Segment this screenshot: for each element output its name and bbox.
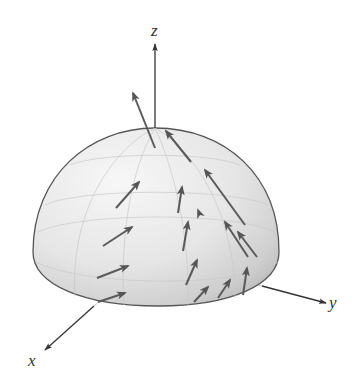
x-axis: [45, 306, 94, 350]
hemisphere: [33, 128, 279, 306]
y-axis-label: y: [327, 293, 337, 312]
z-axis-label: z: [150, 21, 158, 40]
hemisphere-vector-field-diagram: z x y: [0, 0, 356, 385]
x-axis-label: x: [27, 351, 36, 370]
y-axis: [262, 286, 326, 303]
